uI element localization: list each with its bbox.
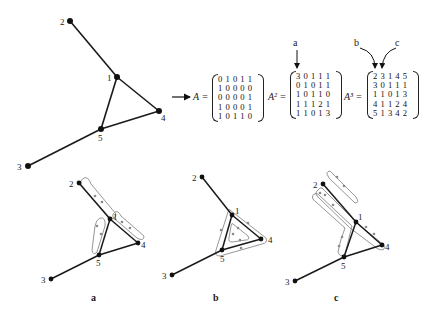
right-paren bbox=[336, 71, 342, 119]
edge-4-5 bbox=[99, 243, 138, 255]
node-1 bbox=[230, 213, 235, 218]
matrix-row: 1 1 0 1 3 bbox=[296, 109, 331, 118]
edge-1-5 bbox=[222, 215, 232, 250]
panel-label-a: a bbox=[91, 292, 96, 303]
walk-loop-2-1-2 bbox=[327, 171, 358, 203]
walk-arrow-icon bbox=[100, 233, 103, 236]
node-label-1: 1 bbox=[358, 212, 363, 222]
walk-arrow-icon bbox=[365, 226, 368, 229]
node-label-5: 5 bbox=[341, 261, 346, 271]
right-paren bbox=[413, 71, 419, 119]
annotation-b: b bbox=[354, 37, 359, 48]
annotation-arrow-c bbox=[382, 48, 396, 68]
walk-arrow-icon bbox=[239, 239, 242, 242]
node-5 bbox=[220, 248, 225, 253]
walk-arrow-icon bbox=[220, 229, 223, 232]
edge-1-5 bbox=[101, 77, 117, 129]
panel-b-graph bbox=[172, 177, 261, 275]
edge-1-4 bbox=[117, 77, 159, 111]
walk-arrow-icon bbox=[240, 247, 243, 250]
walk-loop-1-5 bbox=[92, 218, 105, 254]
node-5 bbox=[342, 255, 347, 260]
edge-3-5 bbox=[295, 257, 344, 281]
node-2 bbox=[321, 182, 326, 187]
node-label-1: 1 bbox=[113, 212, 118, 222]
panel-c-graph bbox=[295, 184, 382, 281]
node-1 bbox=[114, 74, 120, 80]
panel-label-b: b bbox=[213, 292, 219, 303]
edge-1-4 bbox=[110, 219, 138, 243]
walk-arrow-icon bbox=[96, 225, 99, 228]
node-label-4: 4 bbox=[385, 242, 390, 252]
panel-b-nodes bbox=[170, 175, 264, 278]
node-label-2: 2 bbox=[69, 179, 74, 189]
node-1 bbox=[108, 217, 113, 222]
annotation-a: a bbox=[293, 37, 297, 48]
node-4 bbox=[259, 237, 264, 242]
node-label-3: 3 bbox=[162, 271, 167, 281]
edge-3-5 bbox=[51, 255, 99, 279]
top-graph-labels: 1 2 3 4 5 bbox=[17, 17, 166, 172]
walk-arrow-icon bbox=[94, 195, 97, 198]
annotation-c: c bbox=[395, 37, 399, 48]
node-2 bbox=[77, 181, 82, 186]
top-graph bbox=[28, 21, 159, 166]
node-label-3: 3 bbox=[41, 275, 46, 285]
node-label-3: 3 bbox=[17, 162, 22, 172]
node-3 bbox=[25, 163, 31, 169]
edge-1-4 bbox=[356, 222, 382, 245]
walk-arrow-icon bbox=[237, 227, 240, 230]
walk-arrow-icon bbox=[324, 194, 327, 197]
matrix-a-name: A = bbox=[193, 91, 208, 102]
edge-1-5 bbox=[99, 219, 110, 255]
diagram-canvas: 1 2 3 4 5 1 bbox=[0, 0, 432, 319]
matrix-a3: 2 3 1 4 5 3 0 1 1 1 1 1 0 1 3 4 1 1 2 4 … bbox=[367, 71, 419, 119]
walk-loop-1-2 bbox=[81, 178, 116, 219]
node-5 bbox=[98, 126, 104, 132]
walk-arrow-icon bbox=[373, 233, 376, 236]
node-3 bbox=[293, 279, 298, 284]
panel-c-nodes bbox=[293, 182, 385, 284]
node-3 bbox=[49, 277, 54, 282]
walk-arrow-icon bbox=[341, 236, 344, 239]
walk-arrow-icon bbox=[101, 201, 104, 204]
node-label-2: 2 bbox=[313, 180, 318, 190]
matrix-a2: 3 0 1 1 1 0 1 0 1 1 1 0 1 1 0 1 1 1 2 1 … bbox=[290, 71, 342, 119]
node-label-3: 3 bbox=[285, 277, 290, 287]
edge-1-2 bbox=[70, 21, 117, 77]
annotation-arrow-b bbox=[360, 48, 375, 68]
node-label-5: 5 bbox=[220, 254, 225, 264]
walk-arrow-icon bbox=[338, 245, 341, 248]
node-label-5: 5 bbox=[98, 133, 103, 143]
edge-3-5 bbox=[28, 129, 101, 166]
node-label-4: 4 bbox=[268, 235, 273, 245]
edge-3-5 bbox=[172, 250, 222, 275]
node-label-1: 1 bbox=[107, 73, 112, 83]
matrix-row: 1 0 1 1 0 bbox=[218, 112, 253, 121]
node-label-4: 4 bbox=[161, 113, 166, 123]
walk-arrow-icon bbox=[319, 192, 322, 195]
walk-arrow-icon bbox=[343, 185, 346, 188]
walk-arrow-icon bbox=[129, 227, 132, 230]
panel-b-labels: 1 2 3 4 5 bbox=[162, 173, 273, 281]
walk-arrow-icon bbox=[336, 176, 339, 179]
node-label-2: 2 bbox=[192, 173, 197, 183]
node-label-5: 5 bbox=[96, 258, 101, 268]
node-5 bbox=[97, 253, 102, 258]
edge-1-5 bbox=[344, 222, 356, 257]
node-3 bbox=[170, 273, 175, 278]
walk-arrow-icon bbox=[121, 221, 124, 224]
node-4 bbox=[136, 241, 141, 246]
panel-label-c: c bbox=[334, 292, 338, 303]
walk-arrow-icon bbox=[247, 222, 250, 225]
node-2 bbox=[67, 18, 73, 24]
edge-4-5 bbox=[344, 245, 382, 257]
node-label-1: 1 bbox=[235, 206, 240, 216]
walk-arrow-icon bbox=[232, 233, 235, 236]
right-paren bbox=[258, 74, 264, 122]
matrix-a2-name: A² = bbox=[268, 91, 286, 102]
edge-4-5 bbox=[101, 111, 159, 129]
node-4 bbox=[380, 243, 385, 248]
top-graph-nodes bbox=[25, 18, 162, 169]
edge-1-2 bbox=[202, 177, 232, 215]
